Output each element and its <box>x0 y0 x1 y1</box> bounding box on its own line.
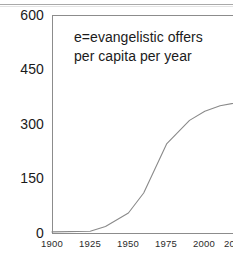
chart-figure: 600 450 300 150 0 1900 1925 1950 1975 20… <box>0 0 233 260</box>
data-series-line <box>0 0 233 260</box>
plot-area: 600 450 300 150 0 1900 1925 1950 1975 20… <box>0 0 233 260</box>
